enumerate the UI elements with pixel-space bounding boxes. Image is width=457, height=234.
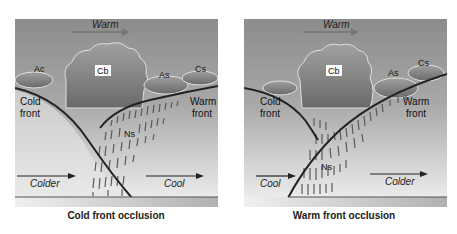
cold-front-label-line1: Cold	[20, 96, 41, 107]
cold-front-label-line2: front	[260, 108, 280, 119]
altocumulus-cloud	[15, 72, 53, 88]
colder-air-label: Colder	[30, 178, 60, 189]
caption-cold-front-occlusion: Cold front occlusion	[6, 210, 226, 221]
caption-warm-front-occlusion: Warm front occlusion	[234, 210, 454, 221]
panel-cold-front-occlusion: Warm Cb Ac As Cs Ns Cold front Warm fron…	[0, 0, 230, 234]
cool-air-label: Cool	[260, 178, 281, 189]
cb-label: Cb	[97, 66, 109, 76]
warm-occlusion-diagram: Warm Cb As Cs Ns Cold front Warm front C…	[230, 0, 457, 234]
cold-front-label-line2: front	[20, 108, 40, 119]
as-label: As	[159, 70, 170, 80]
cb-label: Cb	[328, 66, 340, 76]
cumulonimbus-cloud	[298, 44, 373, 108]
left-cloud	[263, 81, 297, 95]
cold-occlusion-diagram: Warm Cb Ac As Cs Ns Cold front Warm fron…	[0, 0, 230, 234]
cs-label: Cs	[418, 58, 429, 68]
ground	[15, 197, 218, 207]
panel-warm-front-occlusion: Warm Cb As Cs Ns Cold front Warm front C…	[230, 0, 457, 234]
ground	[244, 197, 447, 207]
cold-front-label-line1: Cold	[260, 96, 281, 107]
warm-air-label: Warm	[92, 19, 118, 30]
ac-label: Ac	[34, 64, 45, 74]
as-label: As	[388, 68, 399, 78]
warm-front-label-line2: front	[192, 108, 212, 119]
colder-air-label: Colder	[385, 176, 415, 187]
ns-label: Ns	[124, 129, 135, 139]
warm-front-label-line2: front	[406, 108, 426, 119]
warm-front-label-line1: Warm	[403, 96, 429, 107]
warm-front-label-line1: Warm	[190, 96, 216, 107]
ns-label: Ns	[321, 162, 332, 172]
cs-label: Cs	[195, 64, 206, 74]
warm-air-label: Warm	[323, 19, 349, 30]
cool-air-label: Cool	[164, 178, 185, 189]
